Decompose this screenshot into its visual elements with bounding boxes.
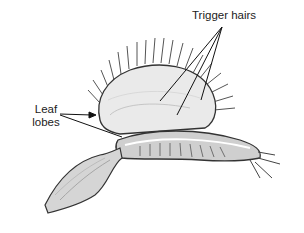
upper-lobe xyxy=(99,65,216,134)
petiole xyxy=(45,148,122,213)
leaf-lobes-label-line2: lobes xyxy=(28,116,64,129)
leaf-lobes-label: Leaf lobes xyxy=(28,103,64,129)
trigger-hairs-label: Trigger hairs xyxy=(192,9,256,22)
venus-flytrap-diagram: Trigger hairs Leaf lobes xyxy=(0,0,304,233)
leaf-lobes-label-line1: Leaf xyxy=(28,103,64,116)
